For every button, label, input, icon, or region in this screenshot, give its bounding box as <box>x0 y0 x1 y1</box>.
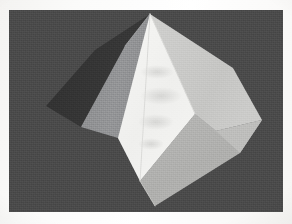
smudge-center-icon <box>140 87 182 105</box>
polyhedron-render-svg <box>9 10 283 212</box>
figure-root <box>0 0 292 224</box>
render-canvas <box>9 10 283 212</box>
smudge-upper-icon <box>140 65 174 79</box>
